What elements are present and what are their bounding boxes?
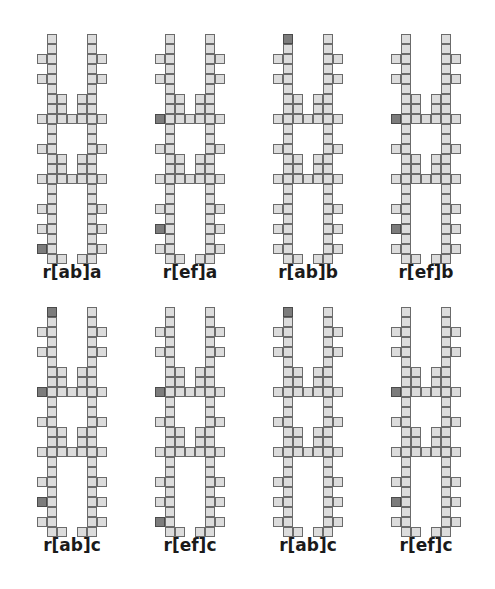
open-cell: [205, 507, 215, 517]
open-cell: [57, 114, 67, 124]
open-cell: [47, 114, 57, 124]
open-cell: [391, 174, 401, 184]
open-cell: [47, 204, 57, 214]
open-cell: [283, 437, 293, 447]
open-cell: [215, 497, 225, 507]
open-cell: [165, 467, 175, 477]
open-cell: [401, 457, 411, 467]
open-cell: [313, 94, 323, 104]
open-cell: [175, 174, 185, 184]
open-cell: [165, 517, 175, 527]
open-cell: [441, 517, 451, 527]
open-cell: [401, 84, 411, 94]
open-cell: [451, 477, 461, 487]
open-cell: [205, 34, 215, 44]
open-cell: [47, 397, 57, 407]
open-cell: [401, 507, 411, 517]
open-cell: [391, 417, 401, 427]
open-cell: [47, 437, 57, 447]
open-cell: [451, 517, 461, 527]
open-cell: [401, 497, 411, 507]
open-cell: [323, 377, 333, 387]
open-cell: [303, 387, 313, 397]
open-cell: [155, 74, 165, 84]
open-cell: [283, 224, 293, 234]
open-cell: [165, 214, 175, 224]
open-cell: [47, 337, 57, 347]
open-cell: [323, 517, 333, 527]
open-cell: [205, 44, 215, 54]
open-cell: [401, 154, 411, 164]
open-cell: [165, 507, 175, 517]
open-cell: [323, 74, 333, 84]
figure-caption: r[ef]c: [376, 535, 476, 555]
open-cell: [57, 174, 67, 184]
open-cell: [441, 347, 451, 357]
open-cell: [303, 447, 313, 457]
open-cell: [283, 327, 293, 337]
open-cell: [391, 204, 401, 214]
open-cell: [391, 244, 401, 254]
marked-cell: [283, 307, 293, 317]
open-cell: [97, 477, 107, 487]
open-cell: [205, 497, 215, 507]
polyomino-grid: [37, 307, 107, 537]
open-cell: [97, 417, 107, 427]
open-cell: [323, 467, 333, 477]
open-cell: [155, 417, 165, 427]
open-cell: [441, 437, 451, 447]
open-cell: [155, 54, 165, 64]
open-cell: [441, 174, 451, 184]
open-cell: [401, 357, 411, 367]
open-cell: [87, 224, 97, 234]
open-cell: [37, 54, 47, 64]
open-cell: [77, 174, 87, 184]
open-cell: [323, 164, 333, 174]
open-cell: [47, 417, 57, 427]
open-cell: [205, 74, 215, 84]
open-cell: [87, 214, 97, 224]
open-cell: [401, 144, 411, 154]
open-cell: [441, 54, 451, 64]
open-cell: [165, 114, 175, 124]
open-cell: [411, 174, 421, 184]
open-cell: [185, 114, 195, 124]
open-cell: [401, 427, 411, 437]
open-cell: [313, 154, 323, 164]
open-cell: [97, 387, 107, 397]
open-cell: [283, 467, 293, 477]
open-cell: [323, 54, 333, 64]
open-cell: [165, 497, 175, 507]
open-cell: [205, 397, 215, 407]
open-cell: [215, 447, 225, 457]
open-cell: [441, 104, 451, 114]
open-cell: [165, 154, 175, 164]
open-cell: [175, 387, 185, 397]
open-cell: [87, 317, 97, 327]
open-cell: [165, 387, 175, 397]
open-cell: [165, 194, 175, 204]
open-cell: [323, 477, 333, 487]
marked-cell: [155, 517, 165, 527]
open-cell: [391, 327, 401, 337]
open-cell: [313, 367, 323, 377]
open-cell: [57, 387, 67, 397]
open-cell: [97, 204, 107, 214]
open-cell: [411, 94, 421, 104]
open-cell: [441, 74, 451, 84]
open-cell: [155, 144, 165, 154]
open-cell: [451, 244, 461, 254]
open-cell: [323, 337, 333, 347]
open-cell: [47, 477, 57, 487]
open-cell: [57, 427, 67, 437]
open-cell: [451, 497, 461, 507]
open-cell: [431, 114, 441, 124]
open-cell: [97, 114, 107, 124]
open-cell: [205, 367, 215, 377]
open-cell: [441, 497, 451, 507]
open-cell: [323, 357, 333, 367]
open-cell: [391, 447, 401, 457]
open-cell: [391, 144, 401, 154]
open-cell: [283, 457, 293, 467]
polyomino-grid: [155, 34, 225, 264]
